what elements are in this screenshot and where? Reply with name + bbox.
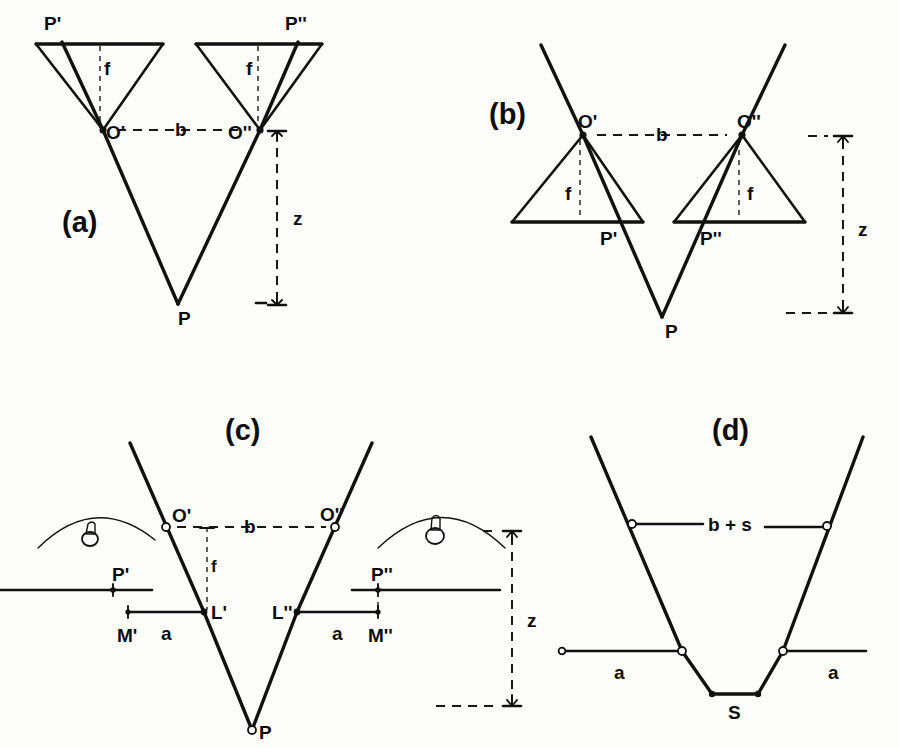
panel-b-left-cone — [512, 135, 643, 222]
panel-a-depth-arrow-down — [272, 295, 282, 305]
panel-b-label-f-right: f — [747, 183, 754, 204]
panel-c-label-a-right: a — [332, 623, 343, 644]
panel-d-caption: (d) — [712, 414, 749, 446]
figure-canvas: P' P'' O' O'' P b f f z (a) — [0, 0, 899, 748]
panel-b-label-z: z — [858, 219, 868, 240]
panel-c-label-m-prime: M' — [117, 625, 137, 646]
panel-c: O' O'' P' P'' L' L'' M' M'' P b f a a z … — [0, 414, 537, 743]
panel-b-left-cone-edge-left — [512, 135, 583, 222]
panel-c-node-left-ring — [162, 523, 170, 531]
panel-c-label-p: P — [259, 722, 272, 743]
panel-a-label-p-dprime: P'' — [285, 13, 307, 34]
panel-b-label-o-prime: O' — [578, 111, 597, 132]
panel-b: O' O'' P' P'' P b f f z (b) — [489, 45, 868, 342]
panel-c-ray-left — [130, 443, 252, 730]
stereo-geometry-figure: P' P'' O' O'' P b f f z (a) — [0, 0, 899, 748]
panel-c-right-offset-group — [297, 606, 381, 618]
panel-b-ray-right — [662, 45, 785, 317]
panel-a-label-f-right: f — [246, 58, 253, 79]
panel-a-caption: (a) — [62, 206, 97, 238]
panel-a-node-right-dot — [256, 126, 263, 133]
panel-d-right-offset-inner-node — [779, 647, 787, 655]
panel-b-label-o-dprime: O'' — [737, 111, 761, 132]
panel-c-left-offset-group — [125, 606, 204, 618]
panel-b-ray-left — [541, 45, 662, 317]
panel-b-right-cone-edge-right — [742, 135, 805, 222]
panel-b-label-b: b — [656, 124, 668, 145]
panel-b-node-right-dot — [738, 131, 745, 138]
panel-c-label-l-dprime: L'' — [272, 602, 293, 623]
panel-c-caption: (c) — [225, 414, 260, 446]
panel-a-left-cone-edge-right — [103, 44, 163, 130]
panel-a-label-z: z — [293, 208, 303, 229]
panel-d-base-right-dot — [755, 691, 761, 697]
panel-c-measure-right-dot — [375, 609, 380, 614]
panel-d-label-a-right: a — [828, 662, 839, 683]
panel-c-label-b: b — [244, 516, 256, 537]
panel-a-label-b: b — [175, 119, 187, 140]
panel-c-label-p-prime: P' — [112, 564, 129, 585]
panel-c-label-m-dprime: M'' — [368, 625, 393, 646]
panel-c-measure-left-dot — [125, 609, 130, 614]
panel-d-ray-right — [758, 437, 863, 694]
panel-a-label-p: P — [178, 308, 191, 329]
panel-c-object-point-ring — [248, 726, 256, 734]
panel-b-label-p-dprime: P'' — [700, 228, 722, 249]
panel-a: P' P'' O' O'' P b f f z (a) — [36, 13, 322, 329]
panel-d-left-offset-end-node — [559, 648, 566, 655]
panel-c-label-l-prime: L' — [211, 602, 227, 623]
panel-c-ray-right — [252, 443, 372, 730]
panel-d-label-s: S — [728, 702, 741, 723]
panel-c-right-image-point-dot — [375, 587, 381, 593]
panel-d-ray-left — [591, 437, 712, 694]
panel-c-depth-dimension — [436, 531, 521, 706]
panel-a-right-cone — [196, 44, 322, 130]
panel-c-depth-arrow-up — [507, 531, 517, 542]
panel-d-label-b-plus-s: b + s — [708, 514, 752, 535]
panel-c-left-image-point-dot — [110, 587, 116, 593]
panel-b-right-cone — [674, 135, 805, 222]
panel-a-ray-left — [62, 42, 178, 304]
panel-c-label-p-dprime: P'' — [371, 564, 393, 585]
panel-a-label-o-dprime: O'' — [228, 122, 252, 143]
panel-b-depth-dimension — [786, 136, 852, 313]
panel-b-depth-arrow-up — [838, 136, 848, 147]
panel-a-label-o-prime: O' — [106, 122, 125, 143]
panel-a-ray-right — [178, 42, 298, 304]
panel-c-label-z: z — [527, 610, 537, 631]
panel-a-depth-arrow-up — [272, 131, 282, 141]
panel-b-caption: (b) — [489, 98, 526, 130]
panel-b-left-cone-edge-right — [583, 135, 643, 222]
panel-b-label-p-prime: P' — [600, 228, 617, 249]
panel-d-label-a-left: a — [614, 662, 625, 683]
panel-b-label-f-left: f — [565, 183, 572, 204]
panel-d-top-chord-left-node — [628, 520, 636, 528]
panel-c-label-o-prime: O' — [172, 505, 191, 526]
panel-b-depth-arrow-down — [838, 302, 848, 313]
panel-c-label-a-left: a — [161, 623, 172, 644]
panel-d: b + s a a S (d) — [559, 414, 866, 723]
panel-d-left-offset-inner-node — [678, 647, 686, 655]
panel-d-base-left-dot — [709, 691, 715, 697]
panel-a-label-f-left: f — [104, 58, 111, 79]
panel-c-label-o-dprime: O'' — [320, 504, 344, 525]
panel-c-left-lens-group — [38, 518, 155, 548]
panel-a-depth-dimension — [256, 131, 286, 305]
panel-d-top-chord-right-node — [823, 522, 831, 530]
panel-a-left-cone — [36, 44, 163, 130]
panel-a-right-cone-edge-left — [196, 44, 260, 130]
panel-b-label-p: P — [665, 321, 678, 342]
panel-c-label-f: f — [211, 557, 217, 576]
panel-a-label-p-prime: P' — [44, 13, 61, 34]
panel-c-depth-arrow-down — [507, 695, 517, 706]
panel-b-node-left-dot — [579, 131, 586, 138]
